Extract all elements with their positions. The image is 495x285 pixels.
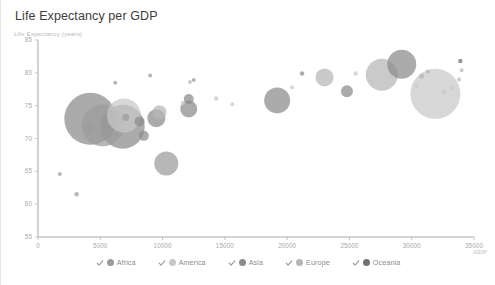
- legend-item-label: Africa: [117, 258, 136, 267]
- legend-item-africa[interactable]: Africa: [96, 258, 136, 267]
- bubble-america[interactable]: [415, 84, 419, 88]
- legend-item-label: Oceania: [373, 258, 400, 267]
- y-axis-tick-label: 80: [8, 69, 32, 76]
- legend-item-asia[interactable]: Asia: [228, 258, 263, 267]
- y-axis-tick-label: 70: [8, 135, 32, 142]
- legend-item-america[interactable]: America: [158, 258, 206, 267]
- legend-color-swatch-icon: [239, 259, 246, 266]
- checkmark-icon[interactable]: [96, 259, 104, 267]
- x-axis-tick-label: 0: [18, 242, 58, 249]
- legend-color-swatch-icon: [296, 259, 303, 266]
- legend: AfricaAmericaAsiaEuropeOceania: [1, 258, 495, 267]
- x-axis-tick-label: 20000: [267, 242, 307, 249]
- bubble-europe[interactable]: [460, 68, 464, 72]
- y-axis-tick-label: 85: [8, 36, 32, 43]
- x-axis-tick-label: 35000: [454, 242, 494, 249]
- x-axis-tick-label: 5000: [80, 242, 120, 249]
- bubble-europe[interactable]: [316, 68, 334, 86]
- legend-item-oceania[interactable]: Oceania: [352, 258, 400, 267]
- x-axis-tick-label: 15000: [205, 242, 245, 249]
- bubble-asia[interactable]: [139, 131, 149, 141]
- bubble-africa[interactable]: [154, 151, 178, 175]
- bubble-america[interactable]: [450, 87, 454, 91]
- chart-widget: Life Expectancy per GDP Life Expectancy …: [0, 0, 495, 285]
- legend-item-label: America: [179, 258, 206, 267]
- y-axis-tick-label: 65: [8, 167, 32, 174]
- bubble-africa[interactable]: [74, 192, 78, 196]
- bubble-africa[interactable]: [122, 114, 129, 121]
- bubble-europe[interactable]: [457, 77, 461, 81]
- bubble-africa[interactable]: [192, 78, 196, 82]
- bubble-america[interactable]: [442, 89, 447, 94]
- bubble-europe[interactable]: [188, 80, 192, 84]
- bubble-series-group: [58, 50, 464, 197]
- bubble-africa[interactable]: [148, 73, 152, 77]
- bubble-europe[interactable]: [152, 105, 166, 119]
- bubble-asia[interactable]: [135, 116, 145, 126]
- y-axis-tick-label: 55: [8, 233, 32, 240]
- bubble-america[interactable]: [230, 102, 234, 106]
- bubble-america[interactable]: [410, 69, 460, 119]
- bubble-america[interactable]: [290, 85, 294, 89]
- legend-color-swatch-icon: [169, 259, 176, 266]
- bubble-america[interactable]: [319, 76, 323, 80]
- legend-color-swatch-icon: [363, 259, 370, 266]
- bubble-america[interactable]: [353, 71, 357, 75]
- legend-item-europe[interactable]: Europe: [285, 258, 330, 267]
- checkmark-icon[interactable]: [352, 259, 360, 267]
- bubble-america[interactable]: [181, 101, 186, 106]
- checkmark-icon[interactable]: [158, 259, 166, 267]
- bubble-asia[interactable]: [300, 71, 304, 75]
- bubble-europe[interactable]: [419, 74, 424, 79]
- bubble-asia[interactable]: [264, 87, 290, 113]
- legend-item-label: Europe: [306, 258, 330, 267]
- bubble-america[interactable]: [214, 96, 218, 100]
- x-axis-tick-label: 10000: [143, 242, 183, 249]
- bubble-asia[interactable]: [387, 50, 416, 79]
- x-axis-tick-label: 25000: [329, 242, 369, 249]
- legend-color-swatch-icon: [107, 259, 114, 266]
- bubble-africa[interactable]: [113, 81, 117, 85]
- x-axis-tick-label: 30000: [392, 242, 432, 249]
- bubble-oceania[interactable]: [458, 59, 462, 63]
- bubble-america[interactable]: [387, 75, 391, 79]
- bubble-europe[interactable]: [426, 70, 430, 74]
- y-axis-tick-label: 60: [8, 200, 32, 207]
- bubble-africa[interactable]: [85, 124, 94, 133]
- bubble-asia[interactable]: [341, 85, 353, 97]
- bubble-africa[interactable]: [58, 172, 62, 176]
- legend-item-label: Asia: [249, 258, 263, 267]
- checkmark-icon[interactable]: [285, 259, 293, 267]
- checkmark-icon[interactable]: [228, 259, 236, 267]
- y-axis-tick-label: 75: [8, 102, 32, 109]
